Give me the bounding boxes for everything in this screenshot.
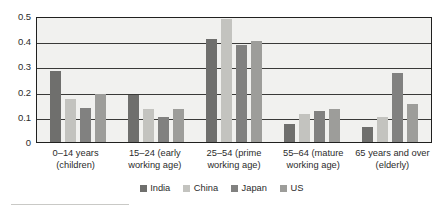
bar-india[interactable] — [362, 127, 373, 142]
x-axis-category-label-line2: working age) — [115, 159, 194, 171]
x-axis-category-label-line1: 65 years and over — [355, 148, 429, 158]
legend-item-india[interactable]: India — [140, 184, 171, 193]
bar-us[interactable] — [173, 109, 184, 142]
y-axis-tick-label: 0.3 — [18, 63, 31, 73]
footnote-separator-rule — [11, 204, 129, 205]
y-axis-tick-label: 0.4 — [18, 37, 31, 47]
bar-group — [39, 18, 117, 142]
y-axis-tick-label: 0 — [26, 138, 31, 148]
y-axis-tick-label: 0.5 — [18, 12, 31, 22]
bar-chart-figure: 0.50.40.30.20.10 0–14 years(children)15–… — [0, 0, 443, 213]
bar-groups — [37, 18, 431, 142]
legend-item-china[interactable]: China — [183, 184, 218, 193]
x-axis-category-label-line2: working age) — [194, 159, 273, 171]
bar-india[interactable] — [50, 71, 61, 142]
bar-japan[interactable] — [158, 117, 169, 142]
x-axis-category-label: 0–14 years(children) — [36, 147, 115, 171]
legend-label: India — [150, 184, 170, 193]
x-axis-category-label: 15–24 (earlyworking age) — [115, 147, 194, 171]
x-axis-category-label-line1: 25–54 (prime — [207, 148, 262, 158]
bar-us[interactable] — [95, 94, 106, 142]
bar-china[interactable] — [143, 109, 154, 142]
legend-swatch-icon — [280, 185, 287, 192]
legend-swatch-icon — [140, 185, 147, 192]
bar-india[interactable] — [128, 95, 139, 142]
bar-us[interactable] — [329, 109, 340, 142]
bar-china[interactable] — [221, 19, 232, 142]
bar-group — [273, 18, 351, 142]
bar-japan[interactable] — [392, 73, 403, 142]
x-axis-category-label-line1: 55–64 (mature — [283, 148, 343, 158]
bar-china[interactable] — [299, 114, 310, 142]
bar-us[interactable] — [407, 104, 418, 142]
y-axis-tick-label: 0.2 — [18, 88, 31, 98]
bar-japan[interactable] — [314, 111, 325, 142]
x-axis-category-label-line2: working age) — [274, 159, 353, 171]
legend-label: China — [194, 184, 218, 193]
y-axis: 0.50.40.30.20.10 — [0, 12, 34, 148]
legend-swatch-icon — [231, 185, 238, 192]
legend-item-japan[interactable]: Japan — [231, 184, 267, 193]
bar-group — [351, 18, 429, 142]
bar-india[interactable] — [284, 124, 295, 142]
bar-group — [195, 18, 273, 142]
legend-label: US — [290, 184, 303, 193]
y-axis-tick-label: 0.1 — [18, 113, 31, 123]
x-axis-category-label-line1: 0–14 years — [53, 148, 99, 158]
chart-legend: IndiaChinaJapanUS — [0, 184, 443, 193]
x-axis-category-label-line2: (elderly) — [353, 159, 432, 171]
bar-japan[interactable] — [80, 108, 91, 142]
x-axis-category-label: 55–64 (matureworking age) — [274, 147, 353, 171]
bar-china[interactable] — [65, 99, 76, 142]
legend-swatch-icon — [183, 185, 190, 192]
bar-us[interactable] — [251, 41, 262, 142]
bar-india[interactable] — [206, 39, 217, 142]
x-axis-category-label-line2: (children) — [36, 159, 115, 171]
plot-area — [36, 17, 432, 143]
legend-label: Japan — [242, 184, 267, 193]
x-axis-labels: 0–14 years(children)15–24 (earlyworking … — [36, 147, 432, 171]
bar-group — [117, 18, 195, 142]
x-axis-category-label: 25–54 (primeworking age) — [194, 147, 273, 171]
bar-china[interactable] — [377, 117, 388, 142]
bar-japan[interactable] — [236, 45, 247, 142]
x-axis-category-label: 65 years and over(elderly) — [353, 147, 432, 171]
x-axis-category-label-line1: 15–24 (early — [129, 148, 181, 158]
legend-item-us[interactable]: US — [280, 184, 303, 193]
